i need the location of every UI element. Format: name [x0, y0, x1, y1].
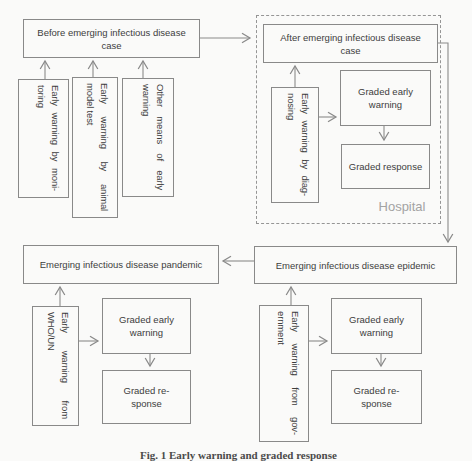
before-case-box: Before emerging infectious disease case	[23, 19, 200, 58]
epidemic-box: Emerging infectious disease epidemic	[254, 246, 457, 284]
hospital-gew-line2: warning	[369, 98, 402, 111]
before-case-line1: Before emerging infectious disease	[37, 26, 185, 39]
monitoring-line1: Early warning by moni-	[48, 85, 62, 191]
hospital-group-label: Hospital	[352, 199, 452, 214]
who-un-line2: WHO/UN	[44, 312, 58, 419]
epidemic-gr-line2: sponse	[361, 397, 392, 410]
who-un-line1: Early warning from	[58, 312, 72, 419]
pandemic-gew-line1: Graded early	[119, 313, 174, 326]
pandemic-box: Emerging infectious disease pandemic	[23, 245, 219, 284]
epidemic-gr-line1: Graded re-	[354, 384, 400, 397]
government-line1: Early warning from gov-	[288, 311, 302, 435]
pandemic-gew-line2: warning	[130, 326, 163, 339]
other-means-line1: Other means of early	[153, 84, 167, 190]
animal-model-box: Early warning by animal model test	[72, 77, 118, 218]
epidemic-graded-response-box: Graded re- sponse	[331, 370, 422, 424]
other-means-line2: warning	[139, 84, 153, 190]
other-means-box: Other means of early warning	[122, 78, 174, 197]
after-case-line1: After emerging infectious disease	[280, 31, 420, 44]
pandemic-gr-line2: sponse	[131, 397, 162, 410]
diagnosing-box: Early warning by diag- nosing	[271, 87, 319, 203]
after-case-line2: case	[340, 44, 360, 57]
animal-model-line1: Early warning by animal	[97, 83, 111, 211]
pandemic-line1: Emerging infectious disease pandemic	[40, 258, 203, 271]
hospital-graded-early-warning-box: Graded early warning	[340, 70, 431, 126]
who-un-box: Early warning from WHO/UN	[32, 306, 79, 426]
government-box: Early warning from gov- ernment	[259, 305, 309, 442]
pandemic-graded-response-box: Graded re- sponse	[102, 370, 191, 424]
epidemic-gew-line1: Graded early	[349, 313, 404, 326]
epidemic-line1: Emerging infectious disease epidemic	[276, 259, 435, 272]
monitoring-line2: toring	[34, 85, 48, 191]
animal-model-line2: model test	[83, 83, 97, 211]
hospital-gew-line1: Graded early	[358, 85, 413, 98]
before-case-line2: case	[101, 39, 121, 52]
after-case-box: After emerging infectious disease case	[263, 24, 438, 63]
government-line2: ernment	[274, 311, 288, 435]
diagnosing-line2: nosing	[284, 93, 298, 196]
figure-caption: Fig. 1 Early warning and graded response	[140, 449, 400, 461]
diagnosing-line1: Early warning by diag-	[298, 93, 312, 196]
hospital-graded-response-box: Graded response	[341, 144, 430, 189]
monitoring-box: Early warning by moni- toring	[18, 79, 69, 198]
pandemic-gr-line1: Graded re-	[124, 384, 170, 397]
epidemic-gew-line2: warning	[360, 326, 393, 339]
hospital-gr-line1: Graded response	[349, 160, 422, 173]
pandemic-graded-early-warning-box: Graded early warning	[102, 298, 191, 354]
epidemic-graded-early-warning-box: Graded early warning	[331, 298, 422, 354]
